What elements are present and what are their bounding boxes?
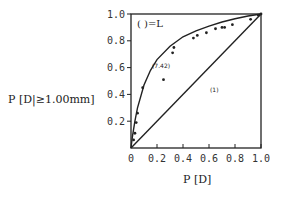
- x-tick-label: 0.8: [226, 153, 244, 164]
- curve-label: (7.42): [152, 62, 170, 69]
- x-tick-label: 0.2: [148, 153, 166, 164]
- x-axis-label: P [D]: [183, 173, 211, 186]
- data-point: [196, 34, 199, 37]
- data-point: [192, 37, 195, 40]
- data-point: [249, 18, 252, 21]
- data-point: [134, 132, 137, 135]
- y-tick-label: 0.8: [107, 35, 125, 46]
- y-tick-label: 1.0: [107, 9, 125, 20]
- data-point: [223, 26, 226, 29]
- data-point: [214, 27, 217, 30]
- x-tick-label: 0.6: [200, 153, 218, 164]
- chart: 00.20.40.60.81.00.20.40.60.81.0 ( )=L (7…: [0, 0, 286, 206]
- y-axis-label: P [D|≥1.00mm]: [8, 93, 95, 107]
- series: [131, 13, 262, 148]
- data-point: [173, 46, 176, 49]
- data-point: [205, 31, 208, 34]
- data-point: [231, 23, 234, 26]
- data-point: [162, 78, 165, 81]
- series-line: [131, 14, 261, 148]
- x-tick-label: 1.0: [252, 153, 270, 164]
- data-point: [171, 51, 174, 54]
- legend-note: ( )=L: [137, 18, 163, 29]
- data-point: [221, 26, 224, 29]
- line-label: (1): [210, 86, 219, 93]
- x-tick-label: 0: [128, 153, 134, 164]
- y-tick-label: 0.2: [107, 116, 125, 127]
- y-tick-label: 0.4: [107, 89, 125, 100]
- x-tick-label: 0.4: [174, 153, 192, 164]
- y-tick-label: 0.6: [107, 62, 125, 73]
